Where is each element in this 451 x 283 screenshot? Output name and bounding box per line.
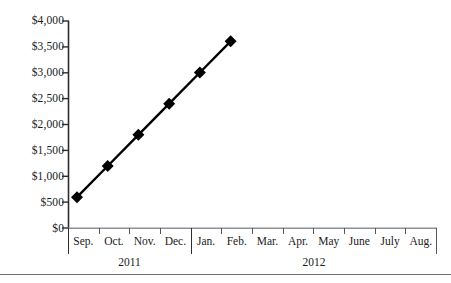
x-axis-tick-label-jan: Jan. [191, 228, 222, 254]
x-axis-tick-label-may: May [313, 228, 344, 254]
x-axis-tick-label-july: July [375, 228, 406, 254]
x-axis-tick-label-aug: Aug. [405, 228, 436, 254]
footer-divider [0, 274, 451, 275]
data-line-series-1 [77, 41, 231, 197]
x-axis-tick-label-dec: Dec. [160, 228, 191, 254]
x-axis-tick-label-oct: Oct. [99, 228, 130, 254]
x-axis-tick-label-mar: Mar. [252, 228, 283, 254]
plot-svg [0, 0, 451, 240]
x-axis-tick-label-apr: Apr. [283, 228, 314, 254]
x-axis-year-label-2012: 2012 [191, 254, 437, 271]
x-axis-year-band: 2011 2012 [68, 254, 437, 271]
x-axis-month-band: Sep. Oct. Nov. Dec. Jan. Feb. Mar. Apr. … [68, 228, 437, 254]
x-axis-tick-label-feb: Feb. [221, 228, 252, 254]
x-axis-tick-label-nov: Nov. [129, 228, 160, 254]
x-axis-tick-label-june: June [344, 228, 375, 254]
x-axis-year-label-2011: 2011 [68, 254, 191, 271]
x-axis-tick-label-sep: Sep. [68, 228, 99, 254]
line-chart: $4,000 $3,500 $3,000 $2,500 $2,000 $1,50… [0, 0, 451, 283]
plot-area: $4,000 $3,500 $3,000 $2,500 $2,000 $1,50… [0, 0, 451, 240]
